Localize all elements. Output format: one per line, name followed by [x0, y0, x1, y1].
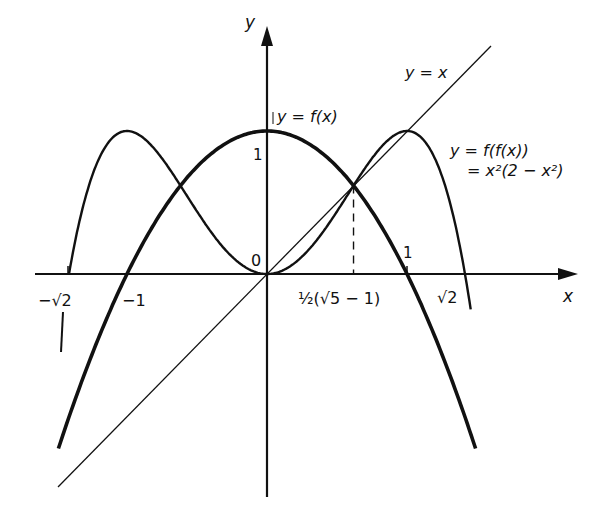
tick-label-neg-sqrt2: −√2 — [38, 291, 72, 310]
x-axis-arrow-icon — [558, 268, 578, 280]
function-iteration-diagram: y x 0 −√2 −1 ½(√5 − 1) 1 √2 1 y = x y = … — [0, 0, 602, 527]
tick-label-sqrt2: √2 — [437, 288, 457, 307]
label-identity: y = x — [404, 63, 448, 82]
tick-label-one-y: 1 — [253, 146, 263, 164]
tick-label-neg-one: −1 — [122, 291, 146, 310]
label-ff-line2: = x²(2 − x²) — [467, 161, 564, 180]
x-axis-label: x — [562, 286, 574, 306]
tick-label-golden: ½(√5 − 1) — [298, 289, 380, 308]
tick-label-one-x: 1 — [403, 244, 413, 262]
label-f: y = f(x) — [276, 107, 338, 126]
axes — [35, 26, 578, 497]
y-axis-arrow-icon — [261, 26, 273, 46]
tick-neg-sqrt2-lower — [61, 312, 63, 352]
identity-line — [58, 46, 491, 487]
y-axis-label: y — [244, 12, 256, 32]
origin-label: 0 — [251, 251, 261, 270]
label-ff-line1: y = f(f(x)) — [449, 141, 529, 160]
